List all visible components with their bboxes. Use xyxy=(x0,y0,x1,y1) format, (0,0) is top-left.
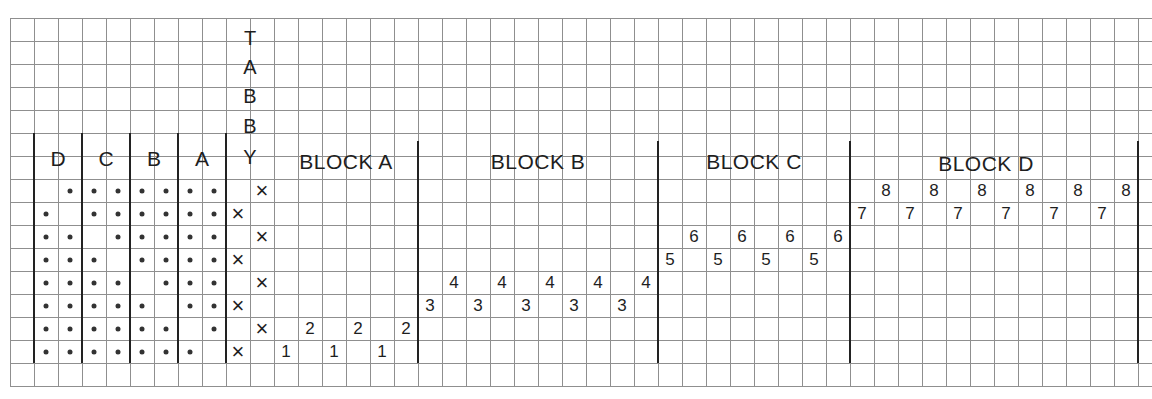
threading-number: 8 xyxy=(922,179,946,202)
tieup-dot xyxy=(164,188,169,193)
threading-number: 3 xyxy=(610,294,634,317)
tieup-dot xyxy=(212,211,217,216)
block-a-title: BLOCK A xyxy=(299,151,392,172)
threading-number: 7 xyxy=(1042,202,1066,225)
tieup-dot xyxy=(164,257,169,262)
tieup-dot xyxy=(188,211,193,216)
tieup-dot xyxy=(92,188,97,193)
tabby-letter-t: T xyxy=(244,28,256,48)
tieup-dot xyxy=(44,280,49,285)
tieup-dot xyxy=(116,234,121,239)
threading-number: 1 xyxy=(370,340,394,363)
threading-number: 8 xyxy=(1018,179,1042,202)
tieup-divider xyxy=(177,133,179,363)
tieup-dot xyxy=(68,234,73,239)
tieup-dot xyxy=(188,280,193,285)
threading-number: 7 xyxy=(898,202,922,225)
tieup-dot xyxy=(92,257,97,262)
threading-number: 6 xyxy=(730,225,754,248)
tieup-dot xyxy=(212,280,217,285)
tabby-letter-b2: B xyxy=(243,116,256,136)
tabby-x-mark: × xyxy=(226,294,250,317)
tieup-dot xyxy=(140,234,145,239)
tieup-dot xyxy=(188,257,193,262)
tieup-dot xyxy=(212,303,217,308)
tabby-letter-b1: B xyxy=(243,86,256,106)
graph-paper-grid xyxy=(10,18,1152,387)
threading-number: 3 xyxy=(466,294,490,317)
tieup-dot xyxy=(140,303,145,308)
tieup-divider xyxy=(81,133,83,363)
threading-number: 8 xyxy=(1066,179,1090,202)
tieup-header-d: D xyxy=(50,148,65,169)
tieup-dot xyxy=(92,349,97,354)
threading-number: 2 xyxy=(346,317,370,340)
tieup-dot xyxy=(44,234,49,239)
tieup-dot xyxy=(92,326,97,331)
tieup-header-c: C xyxy=(98,148,113,169)
tieup-header-b: B xyxy=(147,148,161,169)
threading-number: 8 xyxy=(1114,179,1138,202)
tieup-dot xyxy=(116,349,121,354)
tieup-dot xyxy=(212,234,217,239)
tieup-dot xyxy=(188,234,193,239)
tieup-header-a: A xyxy=(195,148,209,169)
threading-number: 3 xyxy=(418,294,442,317)
tieup-dot xyxy=(68,349,73,354)
threading-number: 4 xyxy=(490,271,514,294)
threading-number: 4 xyxy=(538,271,562,294)
tieup-dot xyxy=(212,257,217,262)
threading-number: 5 xyxy=(754,248,778,271)
tieup-dot xyxy=(116,280,121,285)
tieup-dot xyxy=(188,349,193,354)
tieup-dot xyxy=(164,211,169,216)
tieup-dot xyxy=(188,303,193,308)
tieup-dot xyxy=(212,326,217,331)
threading-number: 4 xyxy=(586,271,610,294)
tieup-dot xyxy=(116,211,121,216)
tieup-dot xyxy=(140,257,145,262)
threading-number: 6 xyxy=(778,225,802,248)
tieup-dot xyxy=(44,326,49,331)
threading-number: 2 xyxy=(298,317,322,340)
tabby-x-mark: × xyxy=(226,202,250,225)
tieup-dot xyxy=(44,257,49,262)
tieup-dot xyxy=(68,188,73,193)
threading-number: 7 xyxy=(946,202,970,225)
tieup-dot xyxy=(92,280,97,285)
threading-number: 8 xyxy=(874,179,898,202)
tieup-dot xyxy=(164,234,169,239)
threading-number: 3 xyxy=(514,294,538,317)
threading-number: 3 xyxy=(562,294,586,317)
block-divider xyxy=(1137,141,1139,363)
tieup-dot xyxy=(116,303,121,308)
tieup-dot xyxy=(164,349,169,354)
threading-number: 5 xyxy=(802,248,826,271)
block-divider xyxy=(849,141,851,363)
threading-number: 6 xyxy=(682,225,706,248)
block-b-title: BLOCK B xyxy=(491,151,586,172)
block-d-title: BLOCK D xyxy=(938,153,1034,174)
threading-number: 1 xyxy=(274,340,298,363)
block-c-title: BLOCK C xyxy=(706,151,802,172)
tieup-dot xyxy=(68,303,73,308)
tieup-dot xyxy=(44,211,49,216)
tieup-dot xyxy=(140,326,145,331)
tieup-dot xyxy=(140,188,145,193)
tabby-letter-y: Y xyxy=(243,147,256,167)
tieup-dot xyxy=(188,188,193,193)
tieup-dot xyxy=(164,280,169,285)
tieup-dot xyxy=(68,257,73,262)
threading-number: 6 xyxy=(826,225,850,248)
tieup-dot xyxy=(116,188,121,193)
threading-number: 7 xyxy=(850,202,874,225)
tabby-x-mark: × xyxy=(250,179,274,202)
threading-number: 4 xyxy=(442,271,466,294)
threading-number: 8 xyxy=(970,179,994,202)
tieup-dot xyxy=(140,349,145,354)
tabby-x-mark: × xyxy=(250,271,274,294)
threading-number: 4 xyxy=(634,271,658,294)
tieup-divider xyxy=(129,133,131,363)
threading-number: 5 xyxy=(658,248,682,271)
threading-number: 7 xyxy=(1090,202,1114,225)
